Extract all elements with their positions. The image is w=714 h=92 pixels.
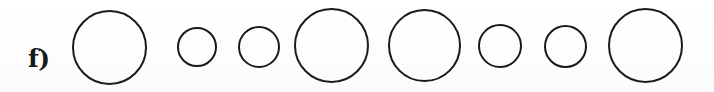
circle-large bbox=[294, 8, 369, 83]
circle-large bbox=[608, 8, 683, 83]
circle-large bbox=[388, 9, 461, 82]
circle-small bbox=[177, 27, 217, 67]
figure-canvas: f) bbox=[0, 0, 714, 92]
circle-large bbox=[72, 10, 147, 85]
circle-small bbox=[478, 24, 522, 68]
circle-small bbox=[238, 26, 280, 68]
circle-small bbox=[544, 25, 587, 68]
item-label: f) bbox=[28, 46, 50, 72]
